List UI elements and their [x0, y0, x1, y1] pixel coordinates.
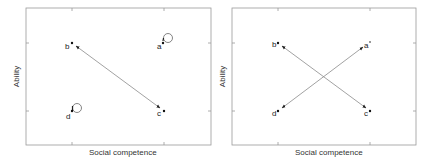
label-b: b — [272, 41, 276, 49]
label-a: a — [364, 42, 368, 50]
label-c: c — [364, 110, 368, 118]
edge-d-a — [282, 47, 363, 108]
point-d — [277, 110, 279, 112]
point-a — [369, 41, 371, 43]
right-plot — [0, 0, 431, 162]
x-axis-label: Social competence — [295, 148, 363, 157]
right-panel: b a c d Social competence Ability — [0, 0, 431, 162]
point-b — [277, 42, 279, 44]
label-d: d — [272, 110, 276, 118]
y-axis-label: Ability — [218, 66, 227, 87]
point-c — [369, 110, 371, 112]
